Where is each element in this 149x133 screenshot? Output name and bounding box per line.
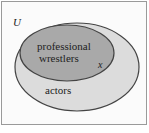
actors-label: actors <box>45 84 71 96</box>
wrestlers-label-line1: professional <box>37 40 91 52</box>
wrestlers-label-line2: wrestlers <box>39 52 79 64</box>
universe-label: U <box>13 16 22 28</box>
element-x-label: x <box>97 59 103 70</box>
venn-diagram: U professional wrestlers x actors <box>0 0 149 133</box>
